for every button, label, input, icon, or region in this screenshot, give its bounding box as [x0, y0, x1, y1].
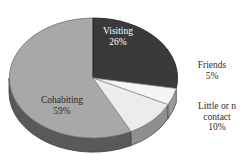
pie-label-visiting-name: Visiting — [88, 26, 148, 37]
pie-label-little-contact-name-line1: Little or n — [186, 101, 245, 112]
pie-label-cohabiting: Cohabiting 59% — [26, 95, 98, 116]
pie-label-cohabiting-name: Cohabiting — [26, 95, 98, 106]
pie-label-friends: Friends 5% — [183, 60, 241, 81]
pie-chart-screenshot: Visiting 26% Cohabiting 59% Friends 5% L… — [0, 0, 245, 165]
pie-label-cohabiting-value: 59% — [26, 106, 98, 117]
pie-label-little-contact-value: 10% — [186, 122, 245, 133]
pie-label-visiting-value: 26% — [88, 37, 148, 48]
pie-label-little-contact-name-line2: contact — [186, 112, 245, 123]
pie-label-visiting: Visiting 26% — [88, 26, 148, 47]
pie-label-little-contact: Little or n contact 10% — [186, 101, 245, 133]
pie-chart-figure — [0, 0, 245, 165]
pie-label-friends-value: 5% — [183, 71, 241, 82]
pie-label-friends-name: Friends — [183, 60, 241, 71]
